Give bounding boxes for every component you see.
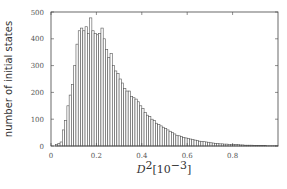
- histogram-bar: [174, 134, 176, 146]
- histogram-chart: 0100200300400500 00.20.40.60.8 number of…: [0, 0, 287, 189]
- histogram-bar: [180, 137, 182, 146]
- histogram-bar: [205, 142, 207, 146]
- histogram-bar: [90, 18, 92, 146]
- histogram-bar: [83, 31, 85, 146]
- histogram-bar: [67, 106, 69, 146]
- histogram-bar: [99, 33, 101, 146]
- histogram-bar: [96, 35, 98, 146]
- histogram-bar: [165, 129, 167, 146]
- histogram-bar: [178, 136, 180, 146]
- x-title-bracket-sup: −3: [171, 159, 187, 172]
- histogram-bar: [110, 54, 112, 146]
- histogram-bar: [65, 121, 67, 146]
- histogram-bar: [115, 71, 117, 146]
- y-tick-label: 400: [31, 35, 44, 43]
- histogram-bar: [74, 66, 76, 146]
- histogram-bar: [155, 123, 157, 146]
- histogram-bar: [103, 39, 105, 146]
- histogram-bar: [176, 135, 178, 146]
- histogram-bar: [60, 142, 62, 146]
- x-axis-title: D2[10−3]: [136, 159, 192, 176]
- histogram-bar: [105, 50, 107, 146]
- histogram-bar: [208, 142, 210, 146]
- histogram-bar: [203, 142, 205, 146]
- histogram-bar: [199, 141, 201, 146]
- x-tick-label: 0.2: [91, 152, 102, 160]
- histogram-bar: [194, 140, 196, 146]
- histogram-bar: [124, 88, 126, 146]
- histogram-bar: [153, 121, 155, 146]
- histogram-bar: [133, 98, 135, 146]
- histogram-bar: [140, 106, 142, 146]
- histogram-bar: [169, 131, 171, 146]
- histogram-bar: [101, 28, 103, 146]
- y-tick-label: 200: [31, 89, 44, 97]
- histogram-bar: [146, 115, 148, 146]
- histogram-bar: [167, 130, 169, 146]
- histogram-bar: [171, 133, 173, 146]
- histogram-bar: [85, 27, 87, 146]
- histogram-bar: [76, 44, 78, 146]
- x-title-bracket-close: ]: [187, 163, 191, 176]
- histogram-bar: [69, 95, 71, 146]
- histogram-bar: [189, 139, 191, 146]
- histogram-bar: [71, 84, 73, 146]
- x-tick-label: 0: [49, 152, 53, 160]
- histogram-bar: [94, 33, 96, 146]
- histogram-bar: [126, 91, 128, 146]
- histogram-bar: [214, 143, 216, 146]
- histogram-bar: [196, 141, 198, 146]
- histogram-bar: [149, 117, 151, 146]
- histogram-bar: [187, 139, 189, 147]
- histogram-bar: [81, 28, 83, 146]
- x-title-sup: 2: [146, 159, 153, 172]
- histogram-bar: [201, 141, 203, 146]
- histogram-bar: [160, 126, 162, 146]
- histogram-bar: [151, 119, 153, 146]
- histogram-bar: [87, 33, 89, 146]
- histogram-bar: [128, 91, 130, 146]
- histogram-bar: [212, 143, 214, 146]
- histogram-bar: [58, 143, 60, 146]
- histogram-bar: [135, 99, 137, 146]
- histogram-bar: [162, 127, 164, 146]
- x-title-bracket-open: [10: [153, 163, 171, 176]
- y-tick-label: 0: [40, 143, 44, 151]
- histogram-bar: [112, 66, 114, 146]
- histogram-bar: [117, 74, 119, 146]
- histogram-bar: [144, 113, 146, 147]
- y-tick-label: 500: [31, 9, 44, 17]
- histogram-bar: [130, 96, 132, 146]
- y-tick-label: 100: [31, 116, 44, 124]
- histogram-bar: [92, 31, 94, 146]
- histogram-bar: [183, 137, 185, 146]
- histogram-bar: [78, 31, 80, 146]
- histogram-bar: [137, 102, 139, 146]
- histogram-bar: [121, 83, 123, 146]
- y-axis-title: number of initial states: [3, 21, 14, 137]
- histogram-bars: [56, 18, 278, 146]
- x-tick-label: 0.8: [227, 152, 238, 160]
- histogram-bar: [142, 108, 144, 146]
- histogram-bar: [210, 143, 212, 146]
- histogram-bar: [119, 79, 121, 146]
- histogram-bar: [108, 58, 110, 146]
- histogram-bar: [158, 125, 160, 146]
- histogram-bar: [62, 130, 64, 146]
- histogram-bar: [192, 140, 194, 146]
- y-tick-label: 300: [31, 62, 44, 70]
- histogram-bar: [185, 138, 187, 146]
- x-title-base: D: [136, 163, 146, 176]
